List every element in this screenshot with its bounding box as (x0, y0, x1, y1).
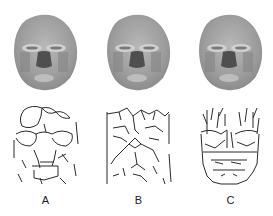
face-render-image (12, 12, 78, 92)
panel-b: B (93, 0, 184, 216)
facial-line-pattern-image (197, 104, 265, 186)
panel-c: C (185, 0, 273, 216)
facial-line-pattern-image (12, 104, 80, 186)
panel-a: A (0, 0, 91, 216)
face-render-image (197, 12, 263, 92)
facial-line-pattern-image (105, 104, 173, 186)
panel-label: B (93, 194, 184, 206)
panel-label: C (185, 194, 273, 206)
panel-label: A (0, 194, 91, 206)
face-render-image (105, 12, 171, 92)
